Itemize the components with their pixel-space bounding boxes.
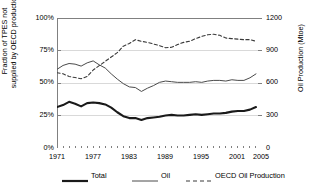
x-axis-tick-2005: 2005 [246,152,276,161]
legend-label-oil: Oil [161,171,170,180]
y-axis-left-tick-100: 100% [20,14,54,22]
y-axis-right-tick-900: 900 [266,46,292,54]
data-series [57,34,256,120]
y-axis-left-title-line2: supplied by OECD production [10,0,19,101]
legend-swatch-total [62,171,88,179]
y-axis-right-tick-1200: 1200 [266,14,292,22]
plot-area [57,18,262,148]
legend-item-total[interactable]: Total [62,168,107,182]
y-axis-left-tick-25: 25% [20,111,54,119]
chart-container: Fraction of TPES not supplied by OECD pr… [0,0,319,189]
series-line-oecd-oil-production [57,34,256,78]
x-axis-tick-1983: 1983 [114,152,144,161]
legend-swatch-oecd-oil-production [186,171,212,179]
legend: Total Oil OECD Oil Production [0,168,319,184]
x-axis-tick-1995: 1995 [186,152,216,161]
x-axis-tick-1989: 1989 [150,152,180,161]
legend-label-oecd-oil-production: OECD Oil Production [215,171,285,180]
y-axis-right-title: Oil Production (Mtoe) [295,6,307,110]
y-axis-right-tick-600: 600 [266,78,292,86]
plot-svg [57,18,262,148]
y-axis-left-tick-75: 75% [20,46,54,54]
legend-swatch-oil [132,171,158,179]
legend-item-oecd-oil-production[interactable]: OECD Oil Production [186,168,285,182]
series-line-total [57,102,256,120]
y-axis-left-tick-0: 0% [20,144,54,152]
x-axis-tick-1977: 1977 [78,152,108,161]
legend-label-total: Total [91,171,107,180]
y-axis-left-tick-50: 50% [20,78,54,86]
y-axis-right-tick-300: 300 [266,111,292,119]
x-axis-tick-1971: 1971 [42,152,72,161]
legend-item-oil[interactable]: Oil [132,168,170,182]
gridlines [57,18,262,148]
y-axis-right-tick-0: 0 [266,144,292,152]
